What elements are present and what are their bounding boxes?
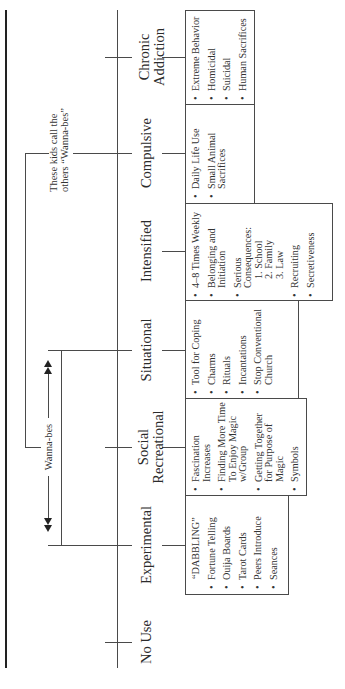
wannabes-arrow-shaft-bottom: [48, 476, 49, 522]
list-item: Stop Conventional Church: [253, 302, 274, 394]
list-item: 4–8 Times Weekly: [191, 205, 202, 297]
stage-label-compulsive: Compulsive: [139, 113, 154, 193]
arrow-down-icon: [44, 518, 52, 525]
list-item: Symbols: [290, 399, 301, 491]
stage-label-nouse: No Use: [139, 616, 154, 668]
connector-experimental: [162, 545, 185, 546]
list-item: Peers Introduce: [253, 497, 264, 589]
box-experimental-header: “DABBLING”: [191, 497, 202, 589]
connector-intensified: [162, 251, 185, 252]
wannabes-bracket-bottom-arm: [48, 545, 132, 546]
stage-axis-line: [117, 10, 118, 668]
tick-chronic-left: [105, 57, 132, 58]
arrow-down-icon: [44, 525, 52, 532]
wannabes-arrow-shaft-top: [48, 372, 49, 418]
list-item: Incantations: [238, 302, 249, 394]
list-item: Tool for Coping: [191, 302, 202, 394]
top-bracket-top-arm-a: [25, 153, 49, 154]
stage-label-intensified: Intensified: [139, 211, 154, 291]
list-item: 3. Law: [275, 205, 286, 297]
stage-label-chronic: Chronic Addiction: [137, 28, 167, 86]
box-intensified-list: 4–8 Times Weekly Belonging and Initiatio…: [191, 205, 321, 297]
top-bracket-top-arm-b: [73, 153, 132, 154]
arrow-up-icon: [44, 367, 52, 374]
list-item: Human Sacrifices: [238, 12, 249, 100]
list-item: Fascination Increases: [191, 399, 212, 491]
connector-compulsive: [162, 153, 185, 154]
top-bracket-vertical: [25, 153, 26, 447]
list-item: Seances: [269, 497, 280, 589]
list-item: Getting Together for Purpose of Magic: [254, 399, 286, 491]
list-item: Ouija Boards: [222, 497, 233, 589]
stage-label-social: Social Recreational: [136, 407, 166, 487]
box-chronic-list: Extreme Behavior Homicidal Suicidal Huma…: [191, 12, 253, 100]
wannabes-label: Wanna-bes: [43, 419, 54, 475]
list-item: Tarot Cards: [238, 497, 249, 589]
tick-nouse-left: [105, 642, 132, 643]
list-item: 2. Family: [264, 205, 275, 297]
wannabes-bracket-vertical: [61, 350, 62, 545]
left-border-line: [5, 10, 7, 668]
stage-label-experimental: Experimental: [139, 500, 154, 590]
list-item: Small Animal Sacrifices: [207, 108, 228, 198]
list-item: Charms: [207, 302, 218, 394]
connector-situational: [162, 350, 185, 351]
arrow-up-icon: [44, 360, 52, 367]
stage-label-situational: Situational: [139, 310, 154, 390]
box-social-recreational-list: Fascination Increases Finding More Time …: [191, 399, 306, 491]
list-item: Belonging and Initiation: [207, 205, 228, 297]
top-bracket-note: These kids call the others “Wanna-bes”: [48, 114, 70, 192]
list-item: Homicidal: [207, 12, 218, 100]
top-bracket-bottom-arm: [25, 447, 41, 448]
box-experimental-list: “DABBLING” Fortune Telling Ouija Boards …: [191, 497, 284, 589]
list-item: Finding More Time To Enjoy Magic w/Group: [217, 399, 249, 491]
box-compulsive-list: Daily Life Use Small Animal Sacrifices: [191, 108, 233, 198]
tick-social-left: [105, 447, 132, 448]
list-item: Recruiting: [290, 205, 301, 297]
list-item: Suicidal: [222, 12, 233, 100]
list-item: Secretiveness: [306, 205, 317, 297]
wannabes-bracket-top-arm: [48, 350, 132, 351]
list-item: Daily Life Use: [191, 108, 202, 198]
list-item: Extreme Behavior: [191, 12, 202, 100]
list-item: Rituals: [222, 302, 233, 394]
box-situational-list: Tool for Coping Charms Rituals Incantati…: [191, 302, 279, 394]
list-item: Fortune Telling: [207, 497, 218, 589]
list-item: Serious Consequences:: [233, 205, 254, 297]
